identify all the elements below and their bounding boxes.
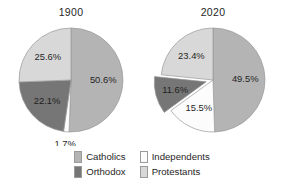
legend-grid: CatholicsIndependentsOrthodoxProtestants: [74, 150, 210, 178]
pie-slice-label: 23.4%: [178, 50, 205, 61]
legend-item[interactable]: Protestants: [140, 165, 210, 178]
pie-slice-label: 15.5%: [186, 102, 213, 113]
chart-1900: 1900 50.6%1.7%22.1%25.6%: [0, 0, 142, 148]
legend-swatch: [74, 166, 82, 178]
pie-wrap-2020: 49.5%15.5%11.6%23.4%: [142, 22, 284, 146]
pie-slice-label: 1.7%: [54, 138, 75, 146]
legend-swatch: [140, 166, 148, 178]
legend-label: Independents: [152, 151, 210, 162]
chart-title-1900: 1900: [0, 6, 142, 18]
pie-slice-label: 22.1%: [34, 95, 61, 106]
pie-slice-label: 49.5%: [232, 73, 259, 84]
legend-label: Catholics: [86, 151, 125, 162]
legend-swatch: [74, 151, 82, 163]
legend-item[interactable]: Independents: [140, 150, 210, 163]
legend-item[interactable]: Catholics: [74, 150, 125, 163]
pie-svg-1900: 50.6%1.7%22.1%25.6%: [0, 22, 142, 146]
legend-label: Protestants: [152, 166, 201, 177]
pie-svg-2020: 49.5%15.5%11.6%23.4%: [142, 22, 284, 146]
legend: CatholicsIndependentsOrthodoxProtestants: [0, 150, 284, 192]
pie-wrap-1900: 50.6%1.7%22.1%25.6%: [0, 22, 142, 146]
legend-item[interactable]: Orthodox: [74, 165, 125, 178]
chart-2020: 2020 49.5%15.5%11.6%23.4%: [142, 0, 284, 148]
chart-title-2020: 2020: [142, 6, 284, 18]
pie-slice-label: 50.6%: [90, 74, 117, 85]
legend-label: Orthodox: [86, 166, 125, 177]
pie-slice-label: 25.6%: [35, 51, 62, 62]
pie-slice-label: 11.6%: [162, 84, 188, 95]
pie-chart-figure: 1900 50.6%1.7%22.1%25.6% 2020 49.5%15.5%…: [0, 0, 284, 192]
charts-row: 1900 50.6%1.7%22.1%25.6% 2020 49.5%15.5%…: [0, 0, 284, 148]
legend-swatch: [140, 151, 148, 163]
